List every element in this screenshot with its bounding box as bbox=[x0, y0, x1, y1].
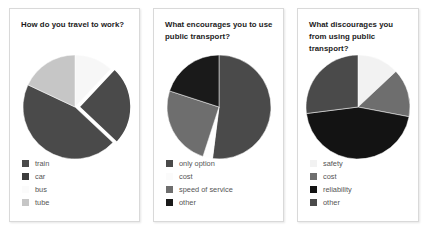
pie-chart-travel-to-work bbox=[10, 51, 139, 163]
legend-item[interactable]: reliability bbox=[310, 183, 410, 195]
legend-swatch-speed-of-service bbox=[166, 186, 173, 193]
pie-svg bbox=[163, 51, 275, 163]
pie-svg bbox=[302, 51, 414, 163]
legend-label: car bbox=[35, 172, 45, 181]
page-title: How do you travel to work? bbox=[21, 19, 131, 31]
legend-item[interactable]: car bbox=[22, 170, 131, 182]
chart-card-travel-to-work: How do you travel to work? traincarbustu… bbox=[9, 8, 140, 222]
legend-item[interactable]: tube bbox=[22, 196, 131, 208]
legend-encourages-public-transport: only optioncostspeed of serviceother bbox=[166, 157, 275, 209]
legend-discourages-public-transport: safetycostreliabilityother bbox=[310, 157, 410, 209]
legend-item[interactable]: train bbox=[22, 157, 131, 169]
legend-item[interactable]: speed of service bbox=[166, 183, 275, 195]
legend-label: cost bbox=[323, 172, 337, 181]
legend-item[interactable]: bus bbox=[22, 183, 131, 195]
chart-card-encourages-public-transport: What encourages you to use public transp… bbox=[153, 8, 284, 222]
legend-label: speed of service bbox=[179, 185, 233, 194]
legend-item[interactable]: only option bbox=[166, 157, 275, 169]
legend-label: cost bbox=[179, 172, 193, 181]
legend-label: other bbox=[179, 198, 196, 207]
legend-item[interactable]: safety bbox=[310, 157, 410, 169]
pie-chart-encourages-public-transport bbox=[154, 51, 283, 163]
legend-swatch-train bbox=[22, 160, 29, 167]
legend-label: train bbox=[35, 159, 49, 168]
legend-item[interactable]: cost bbox=[166, 170, 275, 182]
legend-item[interactable]: other bbox=[166, 196, 275, 208]
legend-label: other bbox=[323, 198, 340, 207]
legend-label: only option bbox=[179, 159, 215, 168]
legend-item[interactable]: cost bbox=[310, 170, 410, 182]
legend-swatch-cost bbox=[310, 173, 317, 180]
legend-swatch-safety bbox=[310, 160, 317, 167]
legend-swatch-other bbox=[166, 199, 173, 206]
pie-slice-reliability[interactable] bbox=[306, 107, 409, 159]
survey-charts-page: How do you travel to work? traincarbustu… bbox=[0, 0, 427, 235]
legend-swatch-reliability bbox=[310, 186, 317, 193]
pie-slice-other[interactable] bbox=[306, 55, 358, 114]
legend-label: reliability bbox=[323, 185, 352, 194]
legend-travel-to-work: traincarbustube bbox=[22, 157, 131, 209]
page-title: What encourages you to use public transp… bbox=[165, 19, 275, 43]
legend-label: bus bbox=[35, 185, 47, 194]
legend-swatch-car bbox=[22, 173, 29, 180]
legend-swatch-tube bbox=[22, 199, 29, 206]
page-title: What discourages you from using public t… bbox=[309, 19, 410, 55]
pie-svg bbox=[19, 51, 131, 163]
legend-swatch-cost bbox=[166, 173, 173, 180]
legend-swatch-bus bbox=[22, 186, 29, 193]
legend-item[interactable]: other bbox=[310, 196, 410, 208]
legend-label: tube bbox=[35, 198, 49, 207]
legend-swatch-only-option bbox=[166, 160, 173, 167]
pie-chart-discourages-public-transport bbox=[298, 51, 418, 163]
legend-swatch-other bbox=[310, 199, 317, 206]
pie-slice-only-option[interactable] bbox=[212, 55, 271, 159]
legend-label: safety bbox=[323, 159, 343, 168]
chart-card-discourages-public-transport: What discourages you from using public t… bbox=[297, 8, 419, 222]
